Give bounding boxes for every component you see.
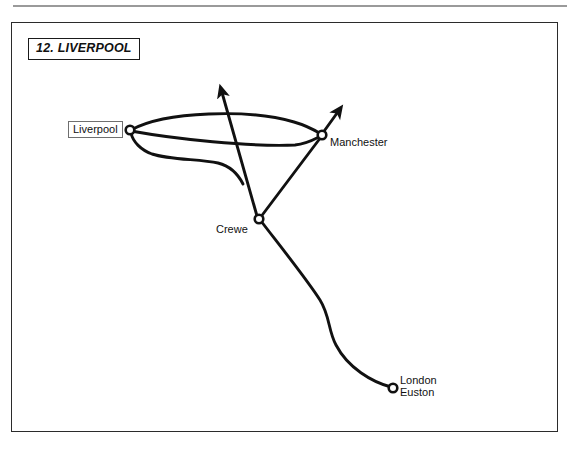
station-label-london-euston: London Euston: [400, 374, 437, 399]
page-root: 12. LIVERPOOL: [0, 0, 577, 456]
station-label-london-euston-line1: London: [400, 374, 437, 386]
figure-caption: 12. LIVERPOOL: [28, 38, 140, 60]
diagram-panel: 12. LIVERPOOL: [11, 22, 558, 432]
station-label-manchester: Manchester: [330, 136, 387, 148]
station-label-london-euston-line2: Euston: [400, 386, 437, 398]
station-label-liverpool: Liverpool: [68, 121, 123, 138]
station-label-crewe: Crewe: [216, 223, 248, 235]
top-horizontal-rule: [13, 5, 567, 7]
